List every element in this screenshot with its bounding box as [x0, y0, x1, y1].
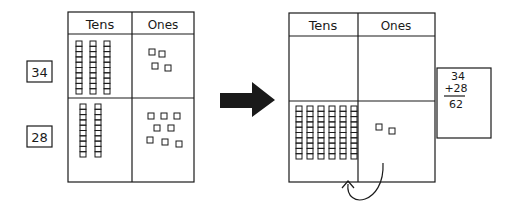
ten-rod [351, 106, 357, 159]
ten-rod [95, 104, 101, 157]
ten-rod [76, 41, 82, 94]
right-place-value-chart [289, 13, 435, 182]
right-arrow-icon [220, 82, 275, 117]
left-header-tens: Tens [85, 17, 115, 32]
unit-cube [176, 141, 182, 147]
ten-rod [296, 106, 302, 159]
equation-addend-2: +28 [444, 82, 467, 95]
place-value-diagram: Tens Ones Tens Ones 34 28 34 +28 62 [0, 0, 514, 214]
ten-rod [80, 104, 86, 157]
unit-cube [174, 113, 180, 119]
ten-rod [329, 106, 335, 159]
number-label-28: 28 [31, 130, 48, 145]
unit-cube [159, 51, 165, 57]
unit-cube [389, 128, 395, 134]
equation-sum: 62 [449, 98, 463, 111]
left-place-value-chart [68, 12, 194, 182]
unit-cube [168, 125, 174, 131]
unit-cube [162, 139, 168, 145]
unit-cube [152, 63, 158, 69]
number-label-34: 34 [31, 65, 48, 80]
ten-rod [318, 106, 324, 159]
right-header-tens: Tens [308, 18, 338, 33]
unit-cube [148, 113, 154, 119]
unit-cube [149, 49, 155, 55]
unit-cube [154, 125, 160, 131]
left-header-ones: Ones [148, 18, 179, 32]
unit-cube [147, 137, 153, 143]
unit-cube [165, 65, 171, 71]
ten-rod [307, 106, 313, 159]
right-header-ones: Ones [381, 19, 412, 33]
unit-cube [161, 113, 167, 119]
ten-rod [104, 41, 110, 94]
ten-rod [340, 106, 346, 159]
unit-cube [376, 124, 382, 130]
ten-rod [90, 41, 96, 94]
